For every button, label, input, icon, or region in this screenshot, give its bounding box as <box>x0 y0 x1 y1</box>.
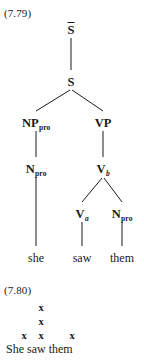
tree-leaf-she: she <box>28 252 44 264</box>
tree-node-vp: VP <box>95 117 112 130</box>
np-pro-subscript: pro <box>39 123 50 132</box>
grid-mark-col2-level1: x <box>38 331 43 342</box>
tree-node-n-pro-right: Npro <box>112 208 132 221</box>
n-pro-right-base: N <box>112 207 121 221</box>
v-b-subscript: b <box>106 169 110 178</box>
s-bar-overbar: S <box>68 22 75 36</box>
tree-node-n-pro-left: Npro <box>26 163 46 176</box>
np-pro-base: NP <box>22 116 39 130</box>
grid-mark-col2-level3: x <box>38 303 43 314</box>
v-a-base: V <box>76 207 85 221</box>
metrical-grid: x x x x x She saw them <box>0 282 144 364</box>
n-pro-left-base: N <box>26 162 35 176</box>
tree-branch-lines <box>0 0 144 278</box>
grid-mark-col1-level1: x <box>21 331 26 342</box>
n-pro-right-subscript: pro <box>121 214 132 223</box>
metrical-grid-sentence: She saw them <box>6 343 73 355</box>
grid-mark-col2-level2: x <box>38 317 43 328</box>
tree-node-s-bar: S <box>68 22 75 36</box>
linguistics-figure-panel: (7.79) S S NPpro VP <box>0 0 144 364</box>
tree-node-v-a: Va <box>76 208 89 221</box>
grid-mark-col3-level1: x <box>69 331 74 342</box>
tree-node-s: S <box>68 76 75 89</box>
syntactic-tree-diagram: S S NPpro VP Npro Vb Va Npro she saw the… <box>0 0 144 278</box>
tree-node-v-b: Vb <box>97 163 110 176</box>
tree-leaf-saw: saw <box>73 252 92 264</box>
n-pro-left-subscript: pro <box>35 169 46 178</box>
v-a-subscript: a <box>85 214 89 223</box>
tree-leaf-them: them <box>110 252 134 264</box>
tree-node-np-pro: NPpro <box>22 117 50 130</box>
v-b-base: V <box>97 162 106 176</box>
